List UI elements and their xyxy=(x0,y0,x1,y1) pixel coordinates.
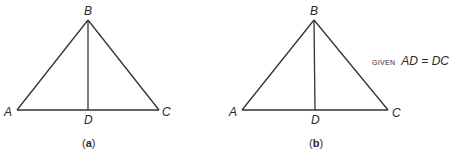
vertex-label-c-b: C xyxy=(392,106,401,120)
geometry-figure: B A C D (a) B A C D (b) GIVEN AD = DC xyxy=(0,0,450,161)
vertex-label-a-a: A xyxy=(3,105,12,119)
vertex-label-c-a: C xyxy=(162,105,171,119)
given-prefix: GIVEN xyxy=(372,59,395,66)
triangle-figure-a: B A C D (a) xyxy=(3,4,171,149)
caption-a: (a) xyxy=(82,137,95,149)
segment-bc-a xyxy=(88,20,159,110)
caption-b: (b) xyxy=(309,137,323,149)
vertex-label-d-a: D xyxy=(84,113,93,127)
segment-bd-b xyxy=(314,20,315,110)
segment-ab-b xyxy=(242,20,314,110)
vertex-label-b-b: B xyxy=(310,4,318,18)
segment-ab-a xyxy=(17,20,88,110)
given-annotation: GIVEN AD = DC xyxy=(372,51,449,68)
triangle-figure-b: B A C D (b) GIVEN AD = DC xyxy=(228,4,449,149)
vertex-label-a-b: A xyxy=(228,105,237,119)
vertex-label-b-a: B xyxy=(84,4,92,18)
vertex-label-d-b: D xyxy=(311,113,320,127)
given-statement: AD = DC xyxy=(400,54,449,68)
